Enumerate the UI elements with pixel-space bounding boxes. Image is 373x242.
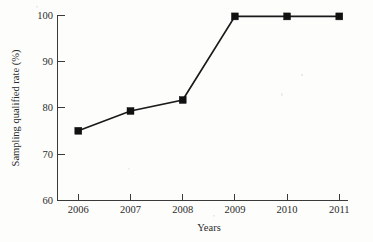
- data-point-2006: [75, 127, 82, 134]
- data-point-2011: [336, 13, 343, 20]
- y-tick-label-90: 90: [43, 56, 54, 67]
- x-tick-label-2009: 2009: [224, 204, 245, 215]
- chart-figure: 100 90 80 70 60 2006 2007 2008 2009 2010…: [0, 0, 373, 242]
- y-tick-label-70: 70: [43, 149, 54, 160]
- x-tick-label-2010: 2010: [277, 204, 298, 215]
- x-tick-label-2007: 2007: [120, 204, 141, 215]
- y-tick-label-80: 80: [43, 102, 54, 113]
- data-point-2007: [127, 108, 134, 115]
- data-point-2009: [231, 13, 238, 20]
- x-tick-label-2008: 2008: [172, 204, 193, 215]
- data-point-2010: [284, 13, 291, 20]
- line-chart: 100 90 80 70 60 2006 2007 2008 2009 2010…: [0, 0, 373, 242]
- x-tick-label-2011: 2011: [329, 204, 350, 215]
- y-tick-label-60: 60: [43, 195, 54, 206]
- x-tick-label-2006: 2006: [68, 204, 89, 215]
- y-axis-title: Sampling qualified rate (%): [10, 49, 22, 166]
- x-axis-title: Years: [197, 222, 220, 233]
- y-tick-label-100: 100: [37, 10, 53, 21]
- data-point-2008: [179, 97, 186, 104]
